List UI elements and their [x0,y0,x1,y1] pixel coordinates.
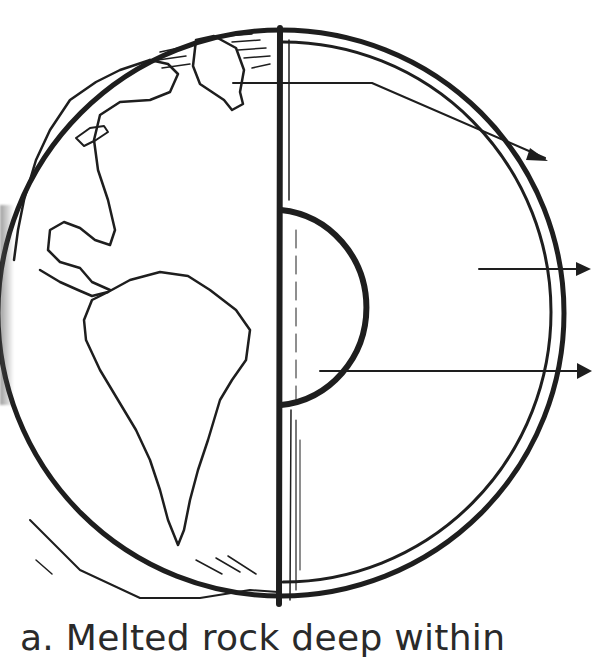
question-option-a: a. Melted rock deep within [20,616,505,660]
core-semicircle [281,210,366,405]
continents [14,36,278,598]
page-fold-shadow [0,205,14,405]
label-arrow-2 [479,262,591,276]
cut-line-hatch [290,410,291,600]
label-arrow-3 [320,363,592,379]
crust-boundary [283,42,551,582]
shading-hatch-marks [36,34,270,574]
earth-layers-diagram [0,0,611,615]
cross-section-cut-line [279,28,280,604]
